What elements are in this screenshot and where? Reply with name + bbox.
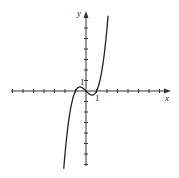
y-tick-label-1: 1 bbox=[80, 77, 85, 87]
y-axis-label: y bbox=[76, 8, 81, 18]
cubic-function-graph: x y 1 1 bbox=[0, 0, 179, 178]
x-axis-label: x bbox=[164, 93, 169, 103]
x-tick-label-1: 1 bbox=[95, 93, 100, 103]
x-axis bbox=[11, 89, 171, 94]
